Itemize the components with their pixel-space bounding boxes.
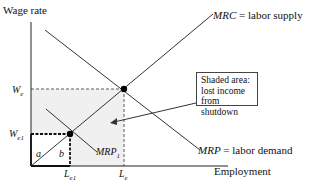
labor-market-diagram (0, 0, 309, 184)
mrp-suffix: = labor demand (221, 144, 293, 156)
le1-tick-label: Le1 (64, 168, 76, 184)
equilibrium-point-e1 (67, 131, 73, 137)
annotation-arrow (114, 103, 196, 122)
mrp1-name: MRP (96, 146, 117, 157)
annotation-line-2: lost income (201, 86, 253, 97)
mrc-supply-label: MRC = labor supply (213, 9, 303, 21)
we1-sub: e1 (17, 134, 24, 142)
annotation-line-1: Shaded area: (201, 75, 253, 86)
mrp-name: MRP (198, 144, 221, 156)
mrc-suffix: = labor supply (236, 9, 302, 21)
we-sub: e (20, 90, 23, 98)
mrp-demand-label: MRP = labor demand (198, 144, 293, 156)
annotation-line-3: from shutdown (201, 96, 253, 117)
le-tick-label: Le (119, 168, 128, 184)
region-b-label: b (59, 148, 64, 160)
we1-tick-label: We1 (9, 128, 24, 144)
y-axis-label: Wage rate (3, 4, 47, 16)
mrp1-label: MRP1 (96, 146, 120, 162)
shaded-area-annotation-box: Shaded area: lost income from shutdown (196, 72, 258, 106)
le1-sub: e1 (70, 174, 77, 182)
equilibrium-point-e (121, 86, 127, 92)
region-a-label: a (36, 148, 41, 160)
x-axis-label: Employment (214, 165, 271, 177)
we-tick-label: We (12, 84, 23, 100)
mrp1-subscript: 1 (117, 152, 121, 160)
mrc-name: MRC (213, 9, 236, 21)
le-sub: e (125, 174, 128, 182)
